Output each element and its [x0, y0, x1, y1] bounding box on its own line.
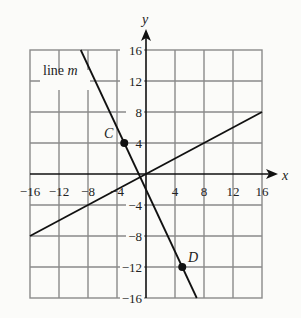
y-axis-label: y: [140, 12, 149, 27]
point-c-label: C: [104, 126, 114, 141]
svg-text:−8: −8: [128, 229, 142, 244]
svg-text:−4: −4: [128, 198, 142, 213]
svg-text:−12: −12: [122, 260, 142, 275]
svg-text:4: 4: [172, 184, 179, 199]
svg-text:−16: −16: [122, 291, 143, 306]
coordinate-plane: x y −16 −12 −8 −4 4 8 12 16 16 12 8 4 −4…: [0, 0, 301, 318]
svg-text:−8: −8: [81, 184, 95, 199]
svg-text:16: 16: [129, 43, 143, 58]
svg-text:4: 4: [136, 136, 143, 151]
svg-text:−12: −12: [49, 184, 69, 199]
svg-text:12: 12: [129, 74, 142, 89]
svg-text:−16: −16: [20, 184, 41, 199]
svg-text:8: 8: [201, 184, 208, 199]
line-m-label: line m: [43, 63, 78, 78]
point-d-label: D: [187, 250, 198, 265]
svg-text:16: 16: [256, 184, 270, 199]
x-axis-label: x: [281, 168, 289, 183]
point-c: [120, 139, 128, 147]
point-d: [178, 263, 186, 271]
svg-text:8: 8: [136, 105, 143, 120]
svg-text:12: 12: [227, 184, 240, 199]
